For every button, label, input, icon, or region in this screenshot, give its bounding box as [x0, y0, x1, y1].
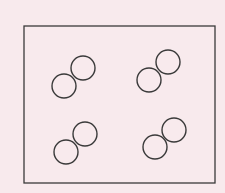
molecule-3	[54, 122, 97, 164]
atom-circle	[54, 140, 78, 164]
atom-circle	[156, 50, 180, 74]
atom-circle	[52, 74, 76, 98]
container-box	[24, 26, 215, 183]
molecules-group	[52, 50, 186, 164]
atom-circle	[143, 135, 167, 159]
particle-diagram	[0, 0, 225, 193]
molecule-2	[137, 50, 180, 92]
molecule-1	[52, 56, 95, 98]
atom-circle	[162, 118, 186, 142]
atom-circle	[71, 56, 95, 80]
atom-circle	[137, 68, 161, 92]
molecule-4	[143, 118, 186, 159]
atom-circle	[73, 122, 97, 146]
